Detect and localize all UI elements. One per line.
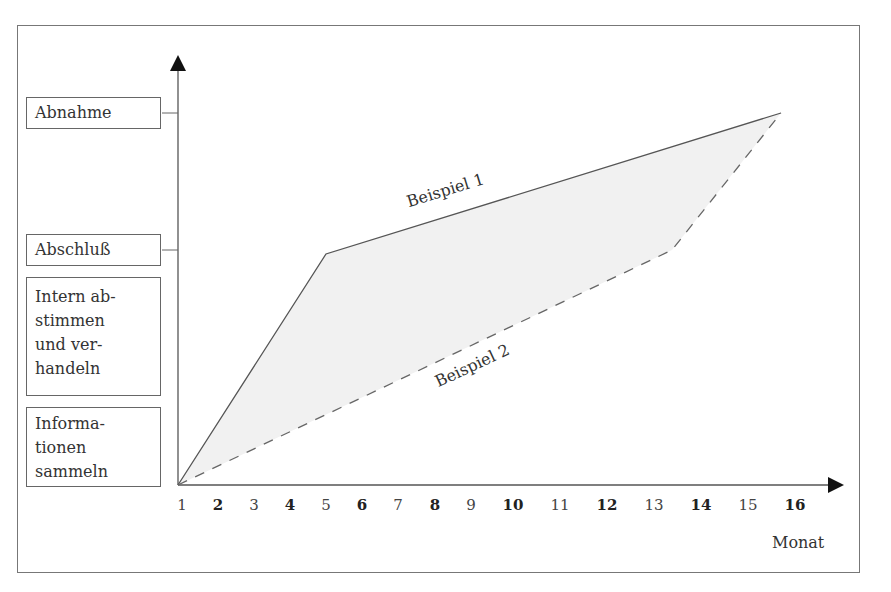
x-tick-15: 15 [738,496,757,514]
stage-label-line: stimmen [35,309,152,333]
x-tick-8: 8 [430,496,440,514]
stage-label-line: Intern ab- [35,285,152,309]
x-tick-14: 14 [691,496,712,514]
stage-label-line: und ver- [35,333,152,357]
stage-box-informationen-sammeln: Informa- tionen sammeln [26,407,161,487]
stage-label: Abschluß [35,240,110,259]
x-axis-arrow-icon [828,477,844,493]
x-tick-4: 4 [285,496,295,514]
x-axis-label: Monat [772,533,824,552]
stage-box-abschluss: Abschluß [26,234,161,266]
x-tick-6: 6 [357,496,367,514]
x-tick-16: 16 [785,496,806,514]
x-tick-11: 11 [550,496,569,514]
x-tick-5: 5 [321,496,331,514]
x-tick-2: 2 [213,496,223,514]
y-axis-arrow-icon [170,55,186,71]
x-tick-9: 9 [466,496,476,514]
x-tick-7: 7 [393,496,403,514]
stage-label-line: tionen [35,436,152,460]
x-tick-10: 10 [503,496,524,514]
stage-box-abnahme: Abnahme [26,97,161,129]
stage-box-intern-abstimmen: Intern ab- stimmen und ver- handeln [26,277,161,396]
x-tick-3: 3 [249,496,259,514]
x-tick-12: 12 [597,496,618,514]
stage-label-line: sammeln [35,460,152,484]
stage-label: Abnahme [35,103,112,122]
x-tick-1: 1 [177,496,187,514]
stage-label-line: handeln [35,357,152,381]
stage-label-line: Informa- [35,412,152,436]
x-tick-13: 13 [644,496,663,514]
